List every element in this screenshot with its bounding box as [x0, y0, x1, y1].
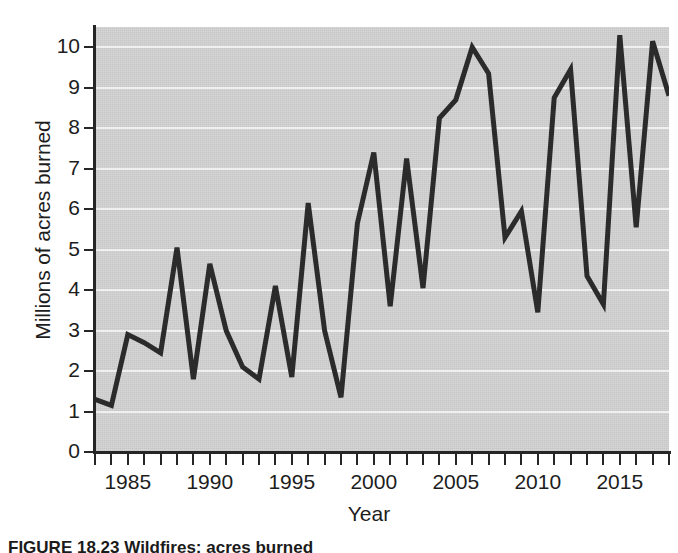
- x-axis-tick-label: 1990: [186, 470, 233, 494]
- x-axis-tick: [176, 454, 178, 465]
- y-axis-tick-label: 7: [46, 156, 80, 180]
- y-axis-line: [93, 25, 96, 454]
- x-axis-line: [93, 451, 671, 454]
- scan-bleedthrough-text: [40, 512, 640, 532]
- y-axis-tick-label: 5: [46, 237, 80, 261]
- x-axis-tick: [209, 454, 211, 465]
- x-axis-tick: [242, 454, 244, 465]
- x-axis-tick: [356, 454, 358, 465]
- y-axis-tick-label: 10: [46, 34, 80, 58]
- x-axis-tick: [422, 454, 424, 465]
- x-axis-tick: [389, 454, 391, 465]
- x-axis-tick: [340, 454, 342, 465]
- y-axis-tick: [84, 168, 94, 170]
- y-axis-tick-label: 2: [46, 358, 80, 382]
- x-axis-tick: [488, 454, 490, 465]
- x-axis-tick: [160, 454, 162, 465]
- x-axis-tick: [324, 454, 326, 465]
- x-axis-tick: [668, 454, 670, 465]
- y-axis-title: Millions of acres burned: [31, 60, 55, 400]
- x-axis-tick: [553, 454, 555, 465]
- y-axis-tick-label: 0: [46, 439, 80, 463]
- x-axis-tick: [471, 454, 473, 465]
- x-axis-tick: [635, 454, 637, 465]
- y-axis-tick: [84, 87, 94, 89]
- plot-area: [95, 27, 669, 452]
- x-axis-tick: [274, 454, 276, 465]
- y-axis-tick-label: 3: [46, 318, 80, 342]
- y-axis-tick: [84, 370, 94, 372]
- x-axis-tick: [586, 454, 588, 465]
- x-axis-tick: [619, 454, 621, 465]
- y-axis-tick: [84, 411, 94, 413]
- x-axis-tick-label: 2005: [432, 470, 479, 494]
- y-axis-tick: [84, 289, 94, 291]
- wildfire-line-chart-figure: Millions of acres burned 012345678910 19…: [0, 0, 678, 553]
- x-axis-tick: [504, 454, 506, 465]
- y-axis-tick: [84, 330, 94, 332]
- y-axis-tick: [84, 451, 94, 453]
- x-axis-tick: [225, 454, 227, 465]
- x-axis-tick: [291, 454, 293, 465]
- x-axis-tick: [455, 454, 457, 465]
- y-axis-tick: [84, 208, 94, 210]
- x-axis-tick: [127, 454, 129, 465]
- x-axis-tick: [602, 454, 604, 465]
- x-axis-tick-label: 1985: [104, 470, 151, 494]
- x-axis-tick: [537, 454, 539, 465]
- x-axis-tick-label: 2000: [350, 470, 397, 494]
- y-axis-tick: [84, 127, 94, 129]
- x-axis-tick: [520, 454, 522, 465]
- x-axis-tick: [373, 454, 375, 465]
- figure-caption-label: FIGURE 18.23: [8, 538, 120, 553]
- y-axis-tick: [84, 249, 94, 251]
- x-axis-tick-label: 1995: [268, 470, 315, 494]
- x-axis-tick: [570, 454, 572, 465]
- acres-burned-line: [95, 35, 669, 405]
- x-axis-tick: [258, 454, 260, 465]
- x-axis-tick: [652, 454, 654, 465]
- y-axis-tick-label: 4: [46, 277, 80, 301]
- y-axis-tick: [84, 46, 94, 48]
- y-axis-tick-label: 1: [46, 399, 80, 423]
- x-axis-tick-label: 2015: [596, 470, 643, 494]
- x-axis-tick: [438, 454, 440, 465]
- figure-caption: FIGURE 18.23 Wildfires: acres burned: [8, 538, 670, 553]
- x-axis-tick: [143, 454, 145, 465]
- y-axis-tick-label: 6: [46, 196, 80, 220]
- x-axis-tick: [307, 454, 309, 465]
- x-axis-tick: [94, 454, 96, 465]
- figure-caption-text: Wildfires: acres burned: [124, 538, 313, 553]
- series-svg: [95, 27, 669, 452]
- x-axis-tick: [192, 454, 194, 465]
- y-axis-tick-label: 8: [46, 115, 80, 139]
- x-axis-tick-label: 2010: [514, 470, 561, 494]
- x-axis-tick: [406, 454, 408, 465]
- y-axis-tick-label: 9: [46, 75, 80, 99]
- x-axis-tick: [110, 454, 112, 465]
